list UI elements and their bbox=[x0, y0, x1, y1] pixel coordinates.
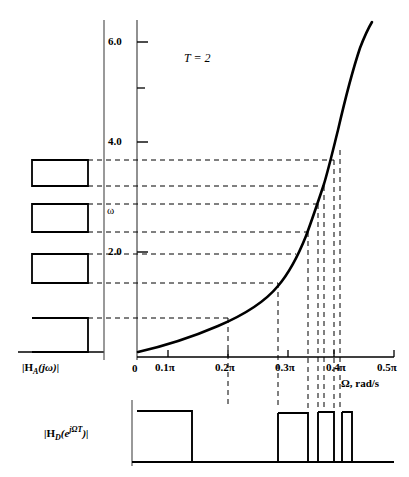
xtick-label-0.3pi: 0.3π bbox=[275, 361, 295, 373]
omega-axis-label: ω bbox=[107, 204, 114, 216]
ytick-label-6: 6.0 bbox=[108, 35, 122, 47]
warping-plot bbox=[137, 22, 394, 357]
digital-band-1 bbox=[137, 411, 192, 462]
xtick-label-0.4pi: 0.4π bbox=[326, 361, 346, 373]
analog-band-1 bbox=[32, 318, 88, 352]
analog-band-4 bbox=[32, 160, 88, 186]
frequency-warping-figure bbox=[0, 0, 409, 477]
digital-axis-label-a: |H bbox=[44, 427, 55, 439]
digital-axis-label-sup: jΩT bbox=[69, 425, 82, 434]
x-axis-ticks bbox=[168, 350, 394, 357]
ytick-label-4: 4.0 bbox=[108, 135, 122, 147]
digital-axis-label: |HD(ejΩT)| bbox=[44, 425, 88, 442]
analog-axis-label: |HA(jω)| bbox=[22, 361, 59, 376]
analog-band-3 bbox=[32, 204, 88, 232]
digital-band-2 bbox=[278, 413, 308, 462]
x-axis-title: Ω, rad/s bbox=[341, 377, 379, 389]
analog-axis-label-text: |H bbox=[22, 361, 33, 373]
vertical-scale-axis bbox=[137, 20, 148, 360]
ytick-label-2: 2.0 bbox=[108, 245, 122, 257]
warping-curve bbox=[138, 22, 372, 352]
analog-band-2 bbox=[32, 254, 88, 283]
digital-magnitude-panel bbox=[132, 400, 394, 466]
xtick-label-0.1pi: 0.1π bbox=[155, 361, 175, 373]
horizontal-projection-lines bbox=[88, 160, 334, 318]
xtick-label-0.2pi: 0.2π bbox=[215, 361, 235, 373]
digital-axis-label-c: )| bbox=[82, 427, 88, 439]
figure-canvas: T = 2 6.0 4.0 2.0 ω 0 |HA(jω)| 0.1π 0.2π… bbox=[0, 0, 409, 477]
analog-magnitude-panel bbox=[18, 20, 104, 360]
digital-band-3 bbox=[318, 412, 334, 462]
digital-band-4 bbox=[342, 412, 352, 462]
xtick-label-0.5pi: 0.5π bbox=[377, 361, 397, 373]
origin-label: 0 bbox=[132, 362, 138, 374]
analog-axis-label-rest: (jω)| bbox=[38, 361, 59, 373]
annotation-T-equals-2: T = 2 bbox=[184, 51, 211, 66]
